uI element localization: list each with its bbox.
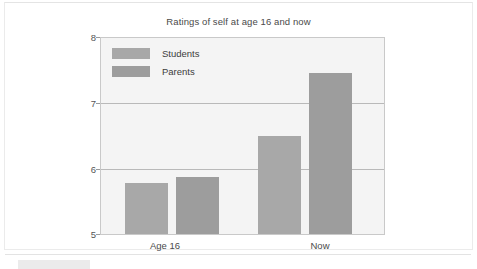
x-axis-label-age-16: Age 16	[120, 240, 210, 251]
legend-label-students: Students	[162, 48, 200, 59]
bar-students-now[interactable]	[258, 136, 301, 234]
y-axis-tick-8: 8	[80, 32, 96, 43]
page-divider	[5, 254, 471, 255]
page-root: Ratings of self at age 16 and now 8 7 6 …	[0, 0, 477, 269]
page-footer-chip	[18, 260, 90, 269]
chart-legend: Students Parents	[112, 47, 200, 83]
chart-title: Ratings of self at age 16 and now	[0, 16, 477, 27]
bar-parents-age-16[interactable]	[176, 177, 219, 234]
legend-swatch-parents	[112, 66, 150, 77]
legend-item-students: Students	[112, 47, 200, 59]
y-axis-tick-5: 5	[80, 229, 96, 240]
legend-item-parents: Parents	[112, 65, 200, 77]
legend-label-parents: Parents	[162, 66, 195, 77]
x-axis-label-now: Now	[275, 240, 365, 251]
legend-swatch-students	[112, 48, 150, 59]
bar-parents-now[interactable]	[309, 73, 352, 234]
y-axis-tick-6: 6	[80, 164, 96, 175]
y-axis-tick-7: 7	[80, 98, 96, 109]
bar-students-age-16[interactable]	[125, 183, 168, 234]
